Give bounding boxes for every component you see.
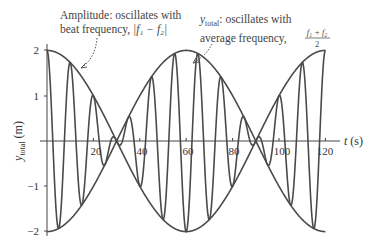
svg-text:Amplitude: oscillates with: Amplitude: oscillates with [60, 9, 182, 22]
y-axis-label: ytotal (m) [11, 121, 27, 162]
x-tick-label: 60 [183, 145, 195, 157]
fraction-numerator: f₁ + f₂ [307, 27, 328, 37]
x-tick-label: 40 [137, 145, 149, 157]
arrow-icon [81, 38, 97, 68]
y-tick-label: 1 [34, 90, 40, 102]
y-tick-label: −1 [27, 180, 39, 192]
y-tick-label: 2 [34, 44, 40, 56]
beat-chart: 2 1 −1 −2 20 40 60 80 100 120 t (s) ytot… [0, 0, 374, 247]
annotation-amplitude: Amplitude: oscillates with beat frequenc… [60, 9, 182, 68]
x-tick-label: 100 [274, 145, 291, 157]
fraction-denominator: 2 [315, 39, 319, 49]
x-tick-label: 20 [91, 145, 103, 157]
x-tick-label: 80 [229, 145, 241, 157]
arrowhead-icon [81, 63, 87, 68]
svg-text:ytotal: oscillates with: ytotal: oscillates with [199, 13, 292, 28]
x-tick-label: 120 [317, 145, 334, 157]
y-tick-label: −2 [27, 225, 39, 237]
svg-text:average frequency,: average frequency, [200, 32, 287, 45]
x-axis-label: t (s) [344, 134, 363, 148]
svg-text:beat frequency, |f₁ − f₂|: beat frequency, |f₁ − f₂| [60, 23, 167, 36]
